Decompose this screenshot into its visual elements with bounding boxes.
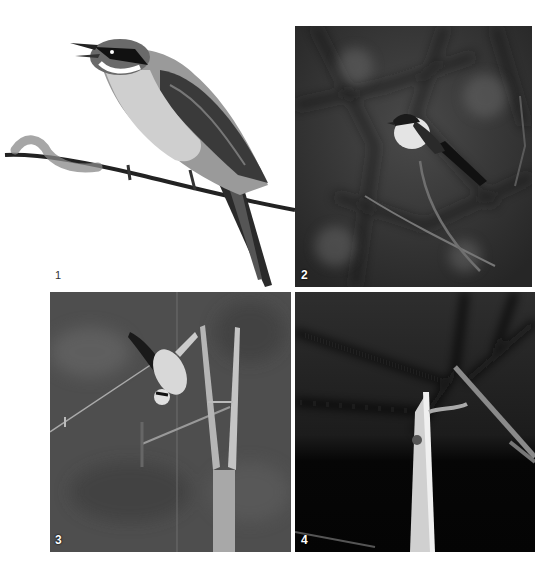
panel-label-3: 3 [55, 534, 62, 546]
photo-panel-2: 2 [295, 26, 532, 287]
photo-panel-3: 3 [50, 292, 291, 552]
shrike-hanging-on-stake-photo [50, 292, 291, 552]
shrike-on-branch-photo [295, 26, 532, 287]
shrike-cutout-photo [0, 25, 295, 290]
panel-label-4: 4 [301, 534, 308, 546]
photo-panel-1: 1 [0, 25, 295, 290]
panel-label-2: 2 [301, 269, 308, 281]
impaled-prey-on-stake-photo [295, 292, 535, 552]
photo-panel-4: 4 [295, 292, 535, 552]
panel-label-1: 1 [55, 269, 61, 281]
